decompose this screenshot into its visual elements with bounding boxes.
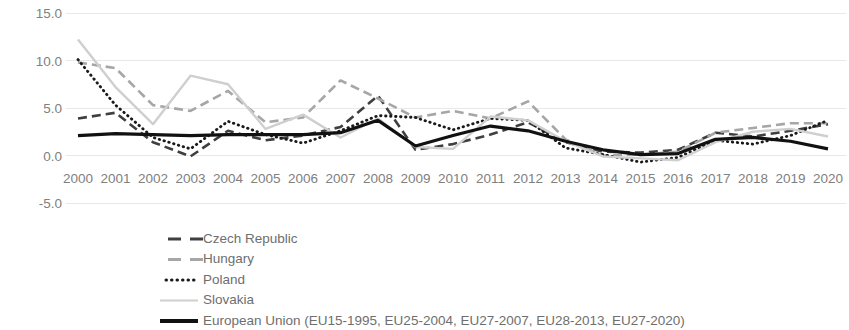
x-tick-label: 2013 xyxy=(550,171,580,186)
y-tick-label: -5.0 xyxy=(39,196,62,211)
y-tick-label: 0.0 xyxy=(43,149,62,164)
legend-label: Slovakia xyxy=(203,292,255,307)
x-tick-label: 2002 xyxy=(138,171,168,186)
x-tick-label: 2020 xyxy=(813,171,843,186)
x-tick-label: 2015 xyxy=(625,171,655,186)
x-tick-label: 2018 xyxy=(738,171,768,186)
x-tick-label: 2004 xyxy=(213,171,244,186)
x-axis-tick-labels: 2000200120022003200420052006200720082009… xyxy=(63,171,843,186)
chart-legend: Czech RepublicHungaryPolandSlovakiaEurop… xyxy=(160,231,685,328)
x-tick-label: 2011 xyxy=(476,171,505,186)
x-tick-label: 2012 xyxy=(513,171,543,186)
x-tick-label: 2007 xyxy=(325,171,355,186)
legend-item: Czech Republic xyxy=(168,231,298,246)
x-tick-label: 2017 xyxy=(700,171,730,186)
legend-item: Slovakia xyxy=(160,292,255,307)
chart-canvas: 15.010.05.00.0-5.0 200020012002200320042… xyxy=(0,0,849,330)
x-tick-label: 2005 xyxy=(250,171,280,186)
x-tick-label: 2019 xyxy=(775,171,805,186)
y-tick-label: 15.0 xyxy=(36,6,62,21)
legend-label: European Union (EU15-1995, EU25-2004, EU… xyxy=(203,313,685,328)
legend-label: Czech Republic xyxy=(203,231,298,246)
x-tick-label: 2014 xyxy=(588,171,619,186)
x-tick-label: 2003 xyxy=(175,171,205,186)
x-tick-label: 2016 xyxy=(663,171,693,186)
legend-item: Poland xyxy=(166,272,245,287)
y-axis-tick-labels: 15.010.05.00.0-5.0 xyxy=(36,6,62,211)
y-tick-label: 5.0 xyxy=(43,101,62,116)
x-tick-label: 2000 xyxy=(63,171,93,186)
series-lines-group xyxy=(78,40,828,163)
x-tick-label: 2008 xyxy=(363,171,393,186)
x-tick-label: 2006 xyxy=(288,171,318,186)
line-chart: 15.010.05.00.0-5.0 200020012002200320042… xyxy=(0,0,849,330)
x-tick-label: 2001 xyxy=(100,171,130,186)
series-line-slovakia xyxy=(78,40,828,161)
legend-item: Hungary xyxy=(168,251,254,266)
legend-label: Hungary xyxy=(203,251,254,266)
legend-item: European Union (EU15-1995, EU25-2004, EU… xyxy=(160,313,685,328)
y-tick-label: 10.0 xyxy=(36,54,62,69)
x-tick-label: 2010 xyxy=(438,171,468,186)
legend-label: Poland xyxy=(203,272,245,287)
x-tick-label: 2009 xyxy=(400,171,430,186)
